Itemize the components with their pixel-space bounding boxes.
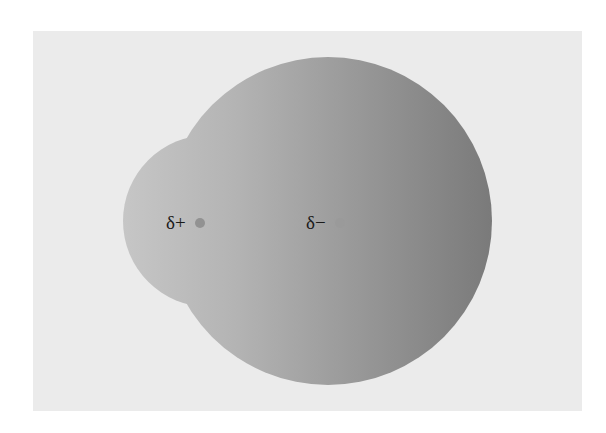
- large-lobe: [164, 57, 492, 385]
- dipole-diagram: [0, 0, 606, 433]
- positive-charge-dot: [195, 218, 205, 228]
- negative-charge-dot: [335, 218, 345, 228]
- negative-charge-label: δ−: [306, 213, 326, 232]
- positive-charge-label: δ+: [166, 213, 186, 232]
